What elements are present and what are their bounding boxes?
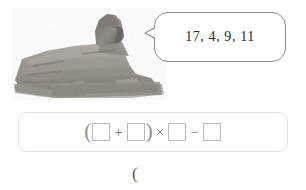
speech-bubble-tail-icon (144, 27, 155, 39)
times-operator: × (153, 125, 167, 140)
close-paren: ) (146, 121, 153, 142)
answer-box-4[interactable] (203, 123, 221, 141)
answer-box-2[interactable] (127, 123, 145, 141)
sphinx-illustration (12, 8, 167, 100)
answer-line-fragment: ( (132, 164, 138, 184)
open-paren: ( (84, 121, 91, 142)
equation-panel: ( + ) × − (18, 112, 288, 152)
plus-operator: + (111, 125, 125, 140)
sphinx-image (12, 8, 167, 100)
minus-operator: − (187, 125, 201, 140)
equation-expression: ( + ) × − (84, 122, 221, 143)
answer-box-3[interactable] (168, 123, 186, 141)
worksheet-page: 17, 4, 9, 11 ( + ) × − ( (0, 0, 306, 190)
answer-box-1[interactable] (92, 123, 110, 141)
speech-bubble-text: 17, 4, 9, 11 (155, 13, 285, 61)
speech-bubble: 17, 4, 9, 11 (154, 12, 286, 62)
